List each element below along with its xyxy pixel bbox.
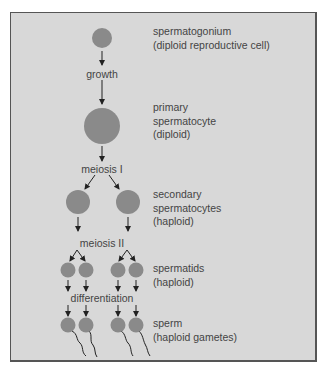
sperm-tail bbox=[139, 331, 150, 356]
spermatid-cell bbox=[111, 263, 126, 278]
sperm-head bbox=[111, 318, 126, 333]
label-line: sperm bbox=[153, 317, 237, 331]
label-line: (diploid reproductive cell) bbox=[153, 39, 270, 53]
label-line: (haploid) bbox=[153, 276, 204, 290]
arrow-meiosis2-split bbox=[77, 250, 85, 261]
sperm-head bbox=[129, 318, 144, 333]
spermatid-cell bbox=[129, 263, 144, 278]
process-meiosis-2: meiosis II bbox=[80, 237, 124, 249]
label-line: spermatocytes bbox=[153, 202, 221, 216]
arrow-meiosis1-right bbox=[109, 175, 119, 189]
label-sperm: sperm (haploid gametes) bbox=[153, 317, 237, 344]
spermatogonium-cell bbox=[92, 28, 112, 48]
label-line: (haploid gametes) bbox=[153, 331, 237, 345]
spermatogenesis-diagram bbox=[0, 0, 325, 369]
arrow-meiosis2-split bbox=[127, 250, 135, 261]
arrow-meiosis2-split bbox=[70, 250, 77, 261]
label-line: spermatocyte bbox=[153, 115, 216, 129]
sperm-tail bbox=[89, 331, 97, 357]
label-line: secondary bbox=[153, 188, 221, 202]
process-growth: growth bbox=[86, 68, 118, 80]
spermatid-cell bbox=[61, 263, 76, 278]
spermatid-cell bbox=[79, 263, 94, 278]
label-primary-spermatocyte: primary spermatocyte (diploid) bbox=[153, 101, 216, 142]
label-spermatogonium: spermatogonium (diploid reproductive cel… bbox=[153, 25, 270, 52]
sperm-head bbox=[61, 318, 76, 333]
sperm-tail bbox=[121, 331, 133, 356]
arrow-meiosis2-split bbox=[119, 250, 127, 261]
label-line: spermatids bbox=[153, 262, 204, 276]
label-line: primary bbox=[153, 101, 216, 115]
process-meiosis-1: meiosis I bbox=[81, 163, 122, 175]
process-differentiation: differentiation bbox=[70, 292, 135, 304]
sperm-tail bbox=[72, 331, 86, 356]
label-secondary-spermatocytes: secondary spermatocytes (haploid) bbox=[153, 188, 221, 229]
secondary-spermatocyte-cell bbox=[66, 190, 90, 214]
sperm-head bbox=[79, 318, 94, 333]
label-line: (diploid) bbox=[153, 128, 216, 142]
primary-spermatocyte-cell bbox=[84, 108, 120, 144]
label-line: (haploid) bbox=[153, 215, 221, 229]
arrow-meiosis1-left bbox=[85, 175, 95, 189]
label-line: spermatogonium bbox=[153, 25, 270, 39]
secondary-spermatocyte-cell bbox=[116, 190, 140, 214]
label-spermatids: spermatids (haploid) bbox=[153, 262, 204, 289]
